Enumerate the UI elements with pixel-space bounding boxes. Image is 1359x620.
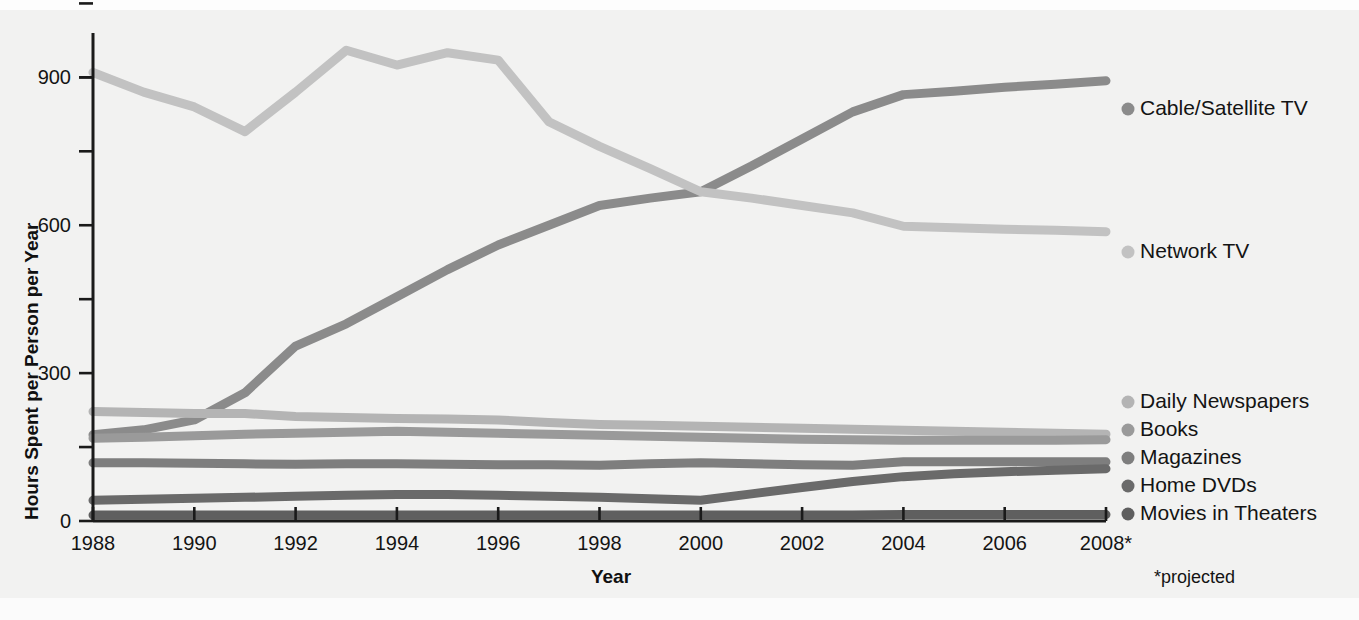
legend-item: Network TV <box>1122 239 1250 262</box>
series-group <box>93 50 1106 515</box>
x-tick-label: 2002 <box>780 532 825 554</box>
y-axis-tick-labels: 0300600900 <box>38 66 71 532</box>
legend-label: Books <box>1140 417 1198 440</box>
series-line-home-dvds <box>93 469 1106 501</box>
projected-footnote: *projected <box>1154 567 1235 587</box>
x-tick-label: 2000 <box>679 532 724 554</box>
legend-item: Daily Newspapers <box>1122 389 1310 412</box>
chart-figure: 0300600900 19881990199219941996199820002… <box>0 0 1359 620</box>
legend-swatch-dot <box>1122 480 1135 493</box>
legend-item: Home DVDs <box>1122 473 1257 496</box>
legend-label: Magazines <box>1140 445 1242 468</box>
x-tick-label: 1990 <box>172 532 217 554</box>
legend-swatch-dot <box>1122 396 1135 409</box>
legend: Cable/Satellite TVNetwork TVDaily Newspa… <box>1122 96 1318 524</box>
x-tick-label: 2008* <box>1080 532 1132 554</box>
legend-item: Movies in Theaters <box>1122 501 1318 524</box>
legend-label: Home DVDs <box>1140 473 1257 496</box>
legend-swatch-dot <box>1122 103 1135 116</box>
x-axis-tick-labels: 1988199019921994199619982000200220042006… <box>71 532 1133 554</box>
x-tick-label: 1992 <box>273 532 318 554</box>
x-axis-title: Year <box>591 566 632 587</box>
y-tick-label: 900 <box>38 66 71 88</box>
x-tick-label: 2006 <box>982 532 1027 554</box>
legend-swatch-dot <box>1122 452 1135 465</box>
x-tick-label: 1988 <box>71 532 116 554</box>
legend-swatch-dot <box>1122 246 1135 259</box>
y-tick-label: 600 <box>38 214 71 236</box>
legend-item: Magazines <box>1122 445 1242 468</box>
legend-label: Cable/Satellite TV <box>1140 96 1308 119</box>
legend-label: Movies in Theaters <box>1140 501 1317 524</box>
legend-label: Network TV <box>1140 239 1249 262</box>
axes-group <box>93 33 1106 521</box>
legend-item: Books <box>1122 417 1199 440</box>
series-line-magazines <box>93 462 1106 465</box>
x-tick-label: 1996 <box>476 532 521 554</box>
y-tick-label: 0 <box>60 510 71 532</box>
y-tick-label: 300 <box>38 362 71 384</box>
x-tick-label: 1994 <box>375 532 420 554</box>
y-axis-title: Hours Spent per Person per Year <box>21 222 42 520</box>
x-tick-label: 1998 <box>577 532 622 554</box>
legend-swatch-dot <box>1122 508 1135 521</box>
legend-swatch-dot <box>1122 424 1135 437</box>
line-chart: 0300600900 19881990199219941996199820002… <box>0 0 1359 620</box>
legend-item: Cable/Satellite TV <box>1122 96 1308 119</box>
legend-label: Daily Newspapers <box>1140 389 1309 412</box>
x-tick-label: 2004 <box>881 532 926 554</box>
